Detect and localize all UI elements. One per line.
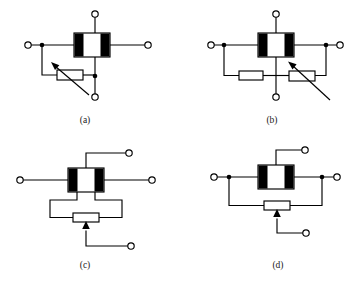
- junction-right: [320, 175, 325, 180]
- block-element-b: [258, 33, 294, 57]
- junction-bottom: [93, 74, 98, 79]
- terminal-top[interactable]: [126, 150, 132, 156]
- block-element-d: [258, 165, 294, 189]
- terminal-left[interactable]: [211, 174, 217, 180]
- terminal-right[interactable]: [149, 177, 155, 183]
- terminal-wiper[interactable]: [128, 243, 134, 249]
- terminal-left[interactable]: [208, 42, 214, 48]
- potentiometer-c: [73, 213, 99, 229]
- panel-d: (d): [211, 147, 340, 271]
- terminal-left[interactable]: [17, 177, 23, 183]
- panel-a: (a): [25, 11, 151, 126]
- block-bar-right: [95, 169, 104, 192]
- circuit-figure: (a): [0, 0, 357, 284]
- terminal-right[interactable]: [334, 174, 340, 180]
- junction-left: [227, 175, 232, 180]
- wire-loop-left: [224, 45, 239, 76]
- terminal-left[interactable]: [25, 42, 31, 48]
- junction-left: [222, 43, 227, 48]
- wire-top: [276, 150, 302, 165]
- resistor-body: [264, 201, 290, 210]
- terminal-right[interactable]: [337, 42, 343, 48]
- terminal-right[interactable]: [145, 42, 151, 48]
- terminal-top[interactable]: [273, 11, 279, 17]
- caption-d: (d): [272, 260, 283, 271]
- caption-c: (c): [80, 260, 91, 271]
- terminal-top[interactable]: [302, 147, 308, 153]
- block-bar-left: [75, 34, 84, 57]
- panel-c: (c): [17, 150, 155, 271]
- block-bar-right: [285, 166, 294, 189]
- block-bar-left: [259, 166, 268, 189]
- block-bar-right: [285, 34, 294, 57]
- terminal-top[interactable]: [92, 11, 98, 17]
- variable-resistor-b: [288, 62, 330, 101]
- variable-resistor-a: [51, 62, 89, 95]
- caption-a: (a): [80, 115, 91, 126]
- block-bar-right: [101, 34, 110, 57]
- wire-pot-right-leg: [290, 177, 322, 206]
- wire-wiper: [86, 231, 128, 246]
- resistor-body: [289, 71, 315, 81]
- terminal-bottom[interactable]: [273, 94, 279, 100]
- figure-container: (a): [0, 0, 357, 284]
- fixed-resistor-b: [239, 71, 263, 80]
- terminal-bottom[interactable]: [92, 94, 98, 100]
- wire-branch-left: [42, 45, 57, 75]
- junction-left: [40, 43, 45, 48]
- resistor-body: [73, 213, 99, 222]
- block-element-a: [74, 33, 110, 57]
- wire-wiper: [277, 219, 303, 233]
- junction-right: [324, 43, 329, 48]
- potentiometer-d: [264, 201, 290, 217]
- wire-top: [86, 153, 126, 168]
- wire-loop-right: [315, 45, 326, 76]
- block-bar-left: [69, 169, 78, 192]
- terminal-wiper[interactable]: [303, 230, 309, 236]
- block-bar-left: [259, 34, 268, 57]
- caption-b: (b): [266, 115, 277, 126]
- panel-b: (b): [208, 11, 343, 126]
- block-element-c: [68, 168, 104, 192]
